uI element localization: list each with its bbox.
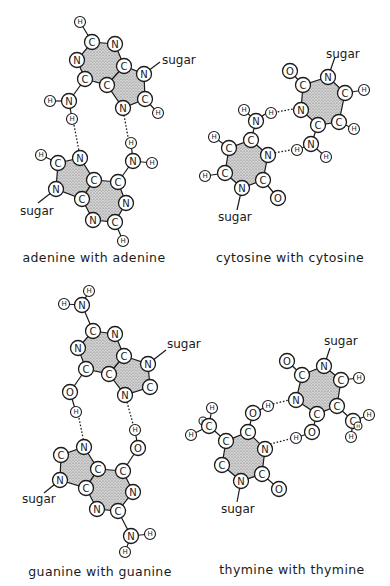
nitrogen-atom: N — [126, 485, 141, 500]
nitrogen-atom: N — [294, 103, 309, 118]
hydrogen-atom: H — [45, 96, 56, 107]
svg-text:C: C — [112, 217, 119, 228]
svg-text:N: N — [292, 395, 299, 406]
hydrogen-atom: H — [292, 145, 303, 156]
sugar-label: sugar — [326, 47, 360, 61]
svg-text:C: C — [55, 158, 62, 169]
nitrogen-atom: N — [289, 393, 304, 408]
svg-text:N: N — [93, 504, 100, 515]
hydrogen-bond — [127, 402, 133, 424]
carbon-atom: C — [102, 367, 117, 382]
svg-text:O: O — [275, 484, 283, 495]
hydrogen-atom: H — [291, 433, 302, 444]
svg-text:C: C — [83, 483, 90, 494]
nitrogen-atom: N — [141, 357, 156, 372]
carbon-atom: C — [87, 173, 102, 188]
carbon-atom: C — [332, 115, 347, 130]
hydrogen-atom: H — [266, 108, 277, 119]
carbon-atom: C — [86, 324, 101, 339]
carbon-atom: C — [54, 448, 69, 463]
svg-text:H: H — [211, 133, 216, 141]
hydrogen-atom: H — [59, 299, 70, 310]
svg-text:N: N — [111, 39, 118, 50]
carbon-atom: C — [143, 380, 158, 395]
svg-text:H: H — [47, 97, 52, 105]
nitrogen-atom: N — [249, 114, 264, 129]
nitrogen-atom: N — [126, 154, 141, 169]
svg-text:N: N — [252, 116, 259, 127]
svg-text:C: C — [147, 382, 154, 393]
nitrogen-atom: N — [116, 101, 131, 116]
hydrogen-atom: H — [321, 152, 332, 163]
carbon-atom: C — [75, 192, 90, 207]
svg-text:H: H — [77, 18, 82, 26]
svg-text:N: N — [80, 442, 87, 453]
carbon-atom: C — [256, 173, 271, 188]
carbon-atom: C — [91, 462, 106, 477]
svg-text:H: H — [155, 109, 160, 117]
oxygen-atom: O — [305, 425, 320, 440]
nitrogen-atom: N — [118, 388, 133, 403]
svg-text:O: O — [134, 443, 142, 454]
svg-text:C: C — [83, 364, 90, 375]
svg-text:H: H — [128, 139, 133, 147]
svg-text:N: N — [129, 156, 136, 167]
hydrogen-atom: H — [75, 17, 86, 28]
hydrogen-atom: H — [147, 158, 158, 169]
svg-text:C: C — [89, 37, 96, 48]
hydrogen-atom: H — [67, 114, 78, 125]
nitrogen-atom: N — [235, 181, 250, 196]
nitrogen-atom: N — [108, 37, 123, 52]
cytosine-molecule-top: O C N C H C H N C N H H sugar — [283, 47, 370, 163]
carbon-atom: C — [215, 458, 230, 473]
svg-text:C: C — [91, 175, 98, 186]
svg-text:C: C — [90, 326, 97, 337]
sugar-label: sugar — [167, 337, 201, 351]
carbon-atom: C — [111, 504, 126, 519]
sugar-label: sugar — [20, 204, 54, 218]
svg-text:N: N — [320, 361, 327, 372]
svg-text:C: C — [336, 117, 343, 128]
nitrogen-atom: N — [53, 473, 68, 488]
carbon-atom: C — [218, 166, 233, 181]
panel-guanine-guanine: H H N C N N C N C C C N O H sugar — [22, 286, 201, 580]
hydrogen-atom: H — [84, 286, 95, 297]
svg-text:N: N — [56, 475, 63, 486]
nitrogen-atom: N — [73, 151, 88, 166]
methyl-carbon-atom: C — [202, 419, 217, 434]
svg-text:H: H — [356, 374, 361, 382]
hydrogen-atom: H — [354, 422, 362, 430]
hydrogen-atom: H — [209, 132, 220, 143]
nitrogen-atom: N — [258, 442, 273, 457]
carbon-atom: C — [244, 133, 259, 148]
carbon-atom: C — [79, 362, 94, 377]
svg-text:C: C — [142, 94, 149, 105]
sugar-label: sugar — [162, 53, 196, 67]
hydrogen-atom: H — [120, 547, 131, 558]
svg-text:H: H — [268, 109, 273, 117]
svg-text:H: H — [293, 434, 298, 442]
oxygen-atom: O — [283, 64, 298, 79]
carbon-atom: C — [117, 59, 132, 74]
carbon-atom: C — [117, 349, 132, 364]
svg-text:N: N — [237, 476, 244, 487]
hydrogen-atom: H — [354, 373, 365, 384]
panel-adenine-adenine: H C N N C N C C N C H N H H sugar — [20, 17, 196, 266]
nitrogen-atom: N — [137, 67, 152, 82]
panel-thymine-thymine: O C N C H N C C C H H H O H sugar — [186, 334, 375, 577]
svg-text:H: H — [188, 431, 193, 439]
svg-text:C: C — [106, 369, 113, 380]
svg-text:C: C — [121, 351, 128, 362]
oxygen-atom: O — [271, 191, 286, 206]
svg-text:H: H — [351, 125, 356, 133]
carbon-atom: C — [111, 175, 126, 190]
svg-text:C: C — [104, 80, 111, 91]
svg-text:C: C — [300, 80, 307, 91]
carbon-atom: C — [330, 399, 345, 414]
hydrogen-atom: H — [359, 85, 370, 96]
svg-text:C: C — [259, 469, 266, 480]
svg-text:O: O — [308, 427, 316, 438]
guanine-molecule-top: H H N C N N C N C C C N O H sugar — [59, 286, 201, 418]
hydrogen-atom: H — [118, 236, 129, 247]
svg-text:O: O — [249, 408, 257, 419]
